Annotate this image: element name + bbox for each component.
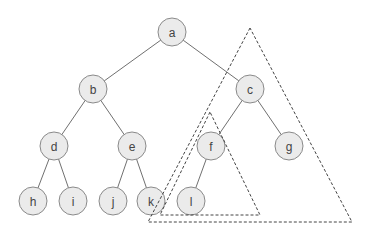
node-j: j	[99, 187, 127, 215]
node-f: f	[197, 132, 225, 160]
node-label: d	[51, 140, 58, 154]
node-label: b	[90, 83, 97, 97]
node-label: h	[30, 195, 37, 209]
node-label: k	[148, 195, 155, 209]
node-h: h	[19, 187, 47, 215]
node-label: l	[190, 195, 193, 209]
node-d: d	[40, 132, 68, 160]
node-label: i	[72, 195, 75, 209]
edge-a-b	[93, 32, 172, 89]
node-e: e	[118, 132, 146, 160]
node-i: i	[59, 187, 87, 215]
node-label: a	[169, 26, 176, 40]
tree-diagram: abcdefghijkl	[0, 0, 374, 234]
subtree-highlights	[148, 28, 352, 222]
node-a: a	[158, 18, 186, 46]
node-k: k	[137, 187, 165, 215]
tree-edges	[33, 32, 289, 201]
node-b: b	[79, 75, 107, 103]
node-label: j	[111, 195, 115, 209]
node-label: g	[286, 140, 293, 154]
node-c: c	[236, 75, 264, 103]
node-l: l	[177, 187, 205, 215]
node-g: g	[275, 132, 303, 160]
node-label: c	[247, 83, 253, 97]
node-label: e	[129, 140, 136, 154]
subtree-c-triangle	[148, 28, 352, 222]
subtree-f-triangle	[160, 112, 260, 215]
